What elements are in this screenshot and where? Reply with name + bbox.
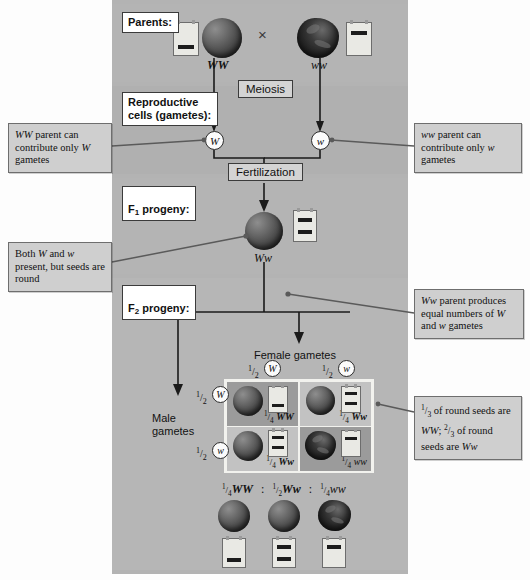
note-left-mid: Both W and w present, but seeds are roun… — [8, 242, 112, 292]
punnett-cell-fraction: 1/4 — [264, 412, 274, 422]
punnett-cell-fraction: 1/4 — [266, 457, 276, 467]
stage-label-parents: Parents: — [122, 12, 179, 33]
gel-band — [272, 404, 284, 407]
ratio-genotype-2: ww — [330, 482, 346, 496]
punnett-cell-caption: 1/4 Ww — [266, 455, 294, 470]
genotype-parent-right: ww — [311, 58, 327, 73]
gel-band — [345, 437, 357, 440]
seed-f1-round — [245, 212, 283, 250]
stage-label-f1-text: F1 progeny: — [128, 203, 189, 215]
gel-band — [272, 436, 284, 439]
gel-band — [178, 45, 194, 49]
gel-band — [227, 558, 242, 562]
ratio-separator-2: : — [304, 482, 317, 496]
gel-band — [298, 218, 313, 222]
stage-label-gametes: Reproductive cells (gametes): — [122, 92, 218, 126]
ratio-separator: : — [256, 482, 269, 496]
seed-round — [233, 386, 263, 416]
gel-card-ww — [341, 430, 361, 457]
gel-band — [351, 31, 367, 35]
gel-band — [272, 446, 284, 449]
punnett-cell-genotype: ww — [354, 456, 367, 467]
ratio-fraction-2: 1/4 — [320, 485, 330, 495]
note-right-top: ww parent can contribute only w gametes — [414, 123, 522, 173]
female-gamete-fraction-1: 1/2 — [322, 364, 333, 380]
male-gamete-fraction-1: 1/2 — [196, 446, 207, 462]
punnett-cell-Ww-bottom: 1/4 Ww — [227, 427, 298, 471]
seed-round — [306, 386, 335, 415]
summary-gel-ww — [322, 538, 346, 568]
genotype-f1: Ww — [254, 251, 272, 266]
male-gamete-circle-w: w — [212, 442, 229, 459]
ratio-row: 1/4WW : 1/2Ww : 1/4ww — [222, 482, 346, 498]
genotype-parent-left: WW — [207, 58, 228, 73]
gamete-circle-paternal-w: w — [311, 131, 330, 150]
ratio-genotype-1: Ww — [282, 482, 301, 496]
gel-band — [277, 557, 292, 561]
gel-card-parent-ww-right — [346, 22, 372, 56]
male-gametes-label: Male gametes — [152, 412, 194, 438]
summary-seed-ww — [318, 500, 351, 531]
summary-seed-Ww — [268, 500, 300, 532]
gel-band — [298, 230, 313, 234]
male-gamete-circle-W: W — [212, 386, 229, 403]
seed-wrinkled — [305, 431, 336, 460]
stage-label-f2-text: F2 progeny: — [128, 302, 189, 314]
punnett-cell-fraction: 1/4 — [341, 457, 351, 467]
note-right-mid: Ww parent produces equal numbers of W an… — [414, 289, 524, 339]
summary-seed-WW — [218, 500, 250, 532]
process-meiosis: Meiosis — [238, 80, 293, 98]
female-gamete-circle-w: w — [338, 360, 355, 377]
seed-parent-wrinkled — [297, 18, 339, 58]
figure-root: Parents: Reproductive cells (gametes): F… — [0, 0, 530, 580]
gel-card-Ww — [268, 430, 288, 457]
note-right-bottom: 1/3 of round seeds are WW; 2/3 of round … — [414, 396, 522, 460]
male-gamete-fraction-0: 1/2 — [196, 390, 207, 406]
stage-label-f2: F2 progeny: — [122, 285, 196, 320]
female-gamete-fraction-0: 1/2 — [248, 364, 259, 380]
seed-parent-round — [202, 18, 242, 58]
gel-card-Ww — [341, 386, 361, 413]
stage-label-f1: F1 progeny: — [122, 186, 196, 221]
female-gamete-circle-W: W — [264, 360, 281, 377]
gel-band — [345, 402, 357, 405]
ratio-fraction-1: 1/2 — [272, 485, 282, 495]
gel-card-f1-Ww — [293, 210, 317, 242]
female-gametes-label: Female gametes — [254, 349, 336, 362]
gel-band — [277, 545, 292, 549]
summary-gel-WW — [222, 538, 246, 568]
gel-band — [345, 392, 357, 395]
note-left-top: WW parent can contribute only W gametes — [8, 123, 112, 173]
punnett-cell-caption: 1/4 ww — [341, 455, 367, 470]
punnett-cell-genotype: Ww — [278, 456, 294, 467]
ratio-genotype-0: WW — [232, 482, 253, 496]
seed-round — [233, 431, 263, 461]
ratio-fraction-0: 1/4 — [222, 485, 232, 495]
punnett-cell-ww: 1/4 ww — [300, 427, 371, 471]
summary-gel-Ww — [272, 538, 296, 568]
punnett-cell-fraction: 1/4 — [339, 412, 349, 422]
gamete-circle-maternal-W: W — [205, 131, 224, 150]
punnett-square: 1/4 WW 1/4 Ww 1/4 Ww — [224, 379, 374, 473]
process-fertilization: Fertilization — [228, 163, 303, 181]
gel-card-WW — [268, 386, 288, 413]
punnett-cell-Ww-top: 1/4 Ww — [300, 382, 371, 426]
gel-band — [327, 545, 342, 549]
cross-symbol: × — [258, 28, 267, 41]
punnett-cell-WW: 1/4 WW — [227, 382, 298, 426]
